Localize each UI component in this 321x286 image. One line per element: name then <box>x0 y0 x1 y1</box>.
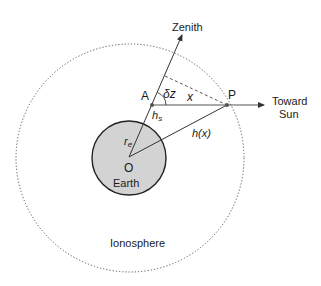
r-e-subscript: e <box>128 140 132 149</box>
zenith-label: Zenith <box>172 21 203 33</box>
ionosphere-geometry-diagram: Zenith A δz x P Toward Sun hs re h(x) O … <box>0 0 321 286</box>
ionosphere-label: Ionosphere <box>110 237 165 249</box>
point-a-dot <box>150 103 154 107</box>
delta-z-label: δz <box>163 88 176 100</box>
x-label: x <box>187 91 193 103</box>
point-a-label: A <box>141 90 149 102</box>
point-p-label: P <box>228 89 236 101</box>
h-x-label: h(x) <box>192 127 211 139</box>
r-e-label: re <box>124 135 132 151</box>
sun-label: Sun <box>279 108 299 120</box>
h-s-label: hs <box>152 109 162 125</box>
point-o-label: O <box>124 162 133 174</box>
earth-label: Earth <box>113 177 139 189</box>
point-p-dot <box>225 103 229 107</box>
toward-label: Toward <box>272 95 307 107</box>
h-s-subscript: s <box>158 114 162 123</box>
